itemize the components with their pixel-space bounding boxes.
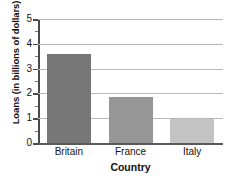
x-axis-tick-label: Italy: [152, 146, 226, 158]
y-axis-minor-tick: [35, 81, 38, 82]
y-axis-major-tick: [33, 143, 38, 145]
y-axis-major-tick: [33, 118, 38, 120]
gridline: [38, 44, 223, 45]
plot-area: [38, 19, 223, 143]
y-axis-major-tick: [33, 19, 38, 21]
bar-italy: [170, 119, 214, 143]
x-axis-baseline: [38, 143, 223, 145]
y-axis-minor-tick: [35, 31, 38, 32]
y-axis-major-tick: [33, 69, 38, 71]
y-axis-minor-tick: [35, 106, 38, 107]
bar-france: [109, 97, 153, 143]
y-axis-major-tick: [33, 93, 38, 95]
y-axis-major-tick: [33, 44, 38, 46]
y-axis-tick-label: 5: [6, 14, 32, 24]
y-axis-minor-tick: [35, 56, 38, 57]
gridline: [38, 19, 223, 20]
bar-britain: [47, 54, 91, 143]
y-axis-tick-label: 3: [6, 64, 32, 74]
y-axis-tick-label: 4: [6, 39, 32, 49]
bar-chart: Loans (in billions of dollars) 012345 Br…: [0, 0, 226, 179]
y-axis-minor-tick: [35, 131, 38, 132]
x-axis-title: Country: [38, 161, 223, 173]
y-axis-tick-label: 2: [6, 88, 32, 98]
x-axis-tick-labels: BritainFranceItaly: [0, 146, 226, 162]
y-axis-tick-label: 1: [6, 113, 32, 123]
